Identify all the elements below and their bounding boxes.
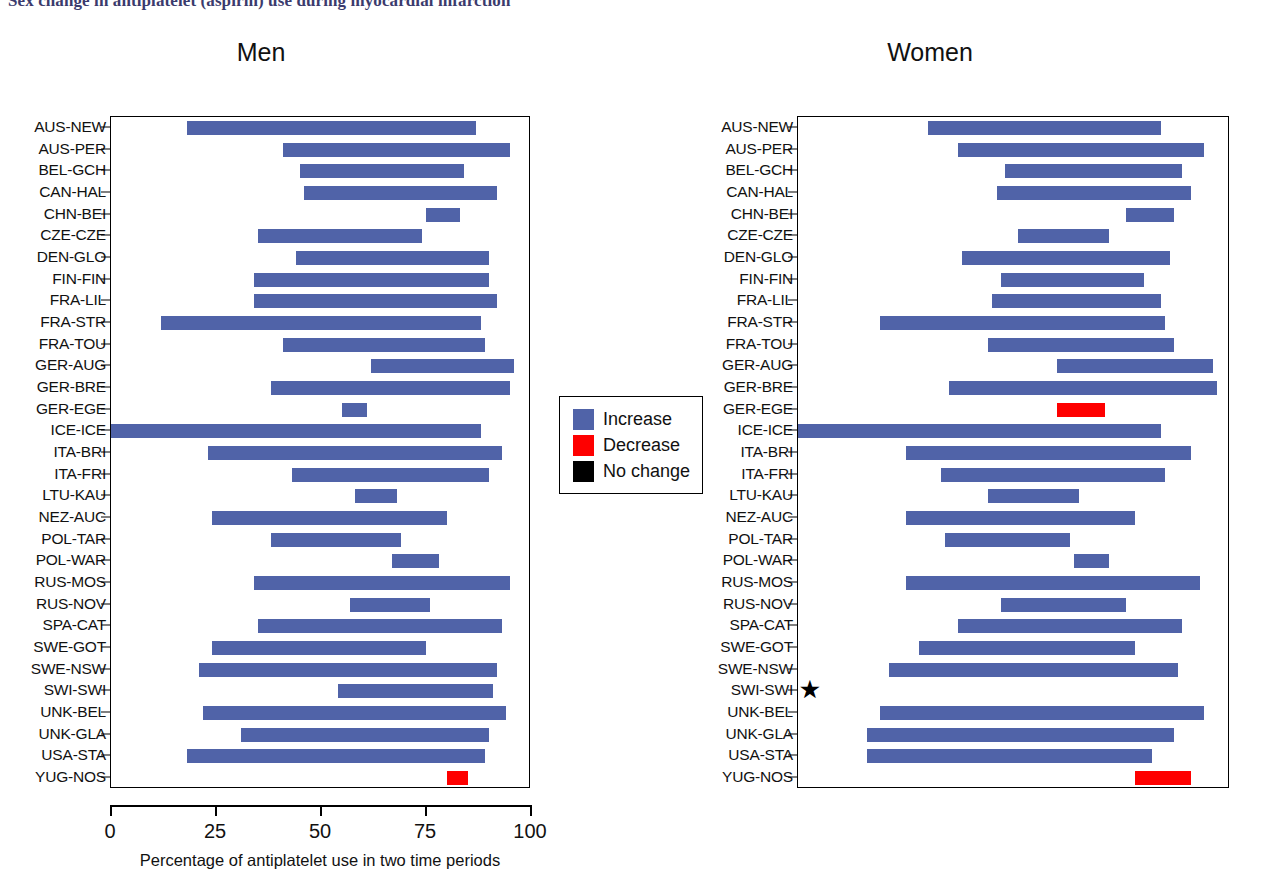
bar-women-swe-nsw (889, 663, 1178, 677)
y-tick-women-26 (788, 690, 797, 691)
bar-women-aus-per (958, 143, 1204, 157)
y-tick-men-11 (101, 365, 110, 366)
bar-women-fra-tou (988, 338, 1174, 352)
y-label-men-usa-sta: USA-STA (41, 746, 106, 764)
bar-women-den-glo (962, 251, 1169, 265)
plot-area-men (110, 116, 530, 788)
y-tick-women-22 (788, 603, 797, 604)
y-label-men-cze-cze: CZE-CZE (40, 226, 106, 244)
y-tick-women-17 (788, 495, 797, 496)
y-label-men-ger-bre: GER-BRE (37, 378, 106, 396)
bar-men-rus-mos (254, 576, 510, 590)
y-label-men-fra-lil: FRA-LIL (50, 291, 106, 309)
bar-men-ita-bri (208, 446, 502, 460)
legend-label-nochange: No change (603, 462, 690, 480)
legend-item-nochange: No change (573, 458, 702, 484)
y-label-women-ita-fri: ITA-FRI (741, 465, 793, 483)
x-tick-men-50 (320, 805, 322, 816)
y-tick-women-24 (788, 647, 797, 648)
bar-men-pol-tar (271, 533, 401, 547)
y-tick-women-6 (788, 256, 797, 257)
y-label-women-aus-per: AUS-PER (725, 140, 793, 158)
y-tick-women-9 (788, 321, 797, 322)
y-label-women-bel-gch: BEL-GCH (725, 161, 793, 179)
y-tick-women-18 (788, 517, 797, 518)
y-tick-men-13 (101, 408, 110, 409)
bar-women-fin-fin (1001, 273, 1144, 287)
y-label-women-fra-str: FRA-STR (727, 313, 793, 331)
y-label-women-swe-nsw: SWE-NSW (718, 660, 793, 678)
bar-men-fra-lil (254, 294, 498, 308)
y-label-men-den-glo: DEN-GLO (37, 248, 106, 266)
y-label-women-swi-swi: SWI-SWI (731, 681, 793, 699)
bar-men-cze-cze (258, 229, 422, 243)
legend: IncreaseDecreaseNo change (559, 396, 703, 494)
y-label-men-rus-nov: RUS-NOV (36, 595, 106, 613)
bar-men-nez-auc (212, 511, 447, 525)
bar-women-swe-got (919, 641, 1135, 655)
bar-men-yug-nos (447, 771, 468, 785)
bar-men-fin-fin (254, 273, 489, 287)
plot-area-women (797, 116, 1229, 788)
bar-men-ger-ege (342, 403, 367, 417)
bar-women-ice-ice (798, 424, 1161, 438)
y-label-women-unk-bel: UNK-BEL (727, 703, 793, 721)
y-tick-women-21 (788, 582, 797, 583)
x-tick-label-men-75: 75 (414, 820, 436, 843)
x-tick-men-100 (530, 805, 532, 816)
y-label-women-ltu-kau: LTU-KAU (729, 486, 793, 504)
y-tick-men-7 (101, 278, 110, 279)
y-tick-men-14 (101, 430, 110, 431)
y-label-men-yug-nos: YUG-NOS (35, 768, 106, 786)
x-tick-men-0 (110, 805, 112, 816)
y-tick-women-20 (788, 560, 797, 561)
y-tick-women-2 (788, 170, 797, 171)
panel-title-men: Men (0, 38, 577, 67)
bar-men-usa-sta (187, 749, 485, 763)
y-tick-men-24 (101, 647, 110, 648)
y-tick-women-28 (788, 733, 797, 734)
y-tick-men-2 (101, 170, 110, 171)
y-label-women-pol-war: POL-WAR (723, 551, 793, 569)
y-label-women-ger-ege: GER-EGE (723, 400, 793, 418)
y-label-men-pol-war: POL-WAR (36, 551, 106, 569)
figure-root: Sex change in antiplatelet (aspirin) use… (0, 0, 1264, 888)
bar-women-ger-aug (1057, 359, 1213, 373)
bar-men-aus-new (187, 121, 477, 135)
y-tick-men-20 (101, 560, 110, 561)
y-tick-women-1 (788, 148, 797, 149)
bar-women-ita-bri (906, 446, 1191, 460)
y-tick-women-7 (788, 278, 797, 279)
y-label-men-can-hal: CAN-HAL (39, 183, 106, 201)
y-label-men-pol-tar: POL-TAR (41, 530, 106, 548)
bar-men-den-glo (296, 251, 489, 265)
y-label-men-aus-new: AUS-NEW (34, 118, 106, 136)
y-tick-men-25 (101, 668, 110, 669)
y-tick-men-15 (101, 452, 110, 453)
y-label-men-fin-fin: FIN-FIN (52, 270, 106, 288)
y-label-men-unk-bel: UNK-BEL (40, 703, 106, 721)
bar-men-spa-cat (258, 619, 502, 633)
bar-men-can-hal (304, 186, 497, 200)
y-label-men-spa-cat: SPA-CAT (43, 616, 106, 634)
bar-women-can-hal (997, 186, 1191, 200)
y-tick-women-12 (788, 386, 797, 387)
bar-women-nez-auc (906, 511, 1135, 525)
x-axis-title-men: Percentage of antiplatelet use in two ti… (140, 851, 500, 870)
bar-women-ger-ege (1057, 403, 1105, 417)
bar-women-yug-nos (1135, 771, 1191, 785)
bar-women-aus-new (928, 121, 1161, 135)
y-tick-women-4 (788, 213, 797, 214)
bar-women-rus-nov (1001, 598, 1126, 612)
bar-men-swe-nsw (199, 663, 497, 677)
y-label-women-spa-cat: SPA-CAT (730, 616, 793, 634)
bar-women-usa-sta (867, 749, 1152, 763)
y-label-men-aus-per: AUS-PER (38, 140, 106, 158)
y-label-women-ger-aug: GER-AUG (722, 356, 793, 374)
y-label-women-chn-bei: CHN-BEI (731, 205, 793, 223)
y-tick-women-15 (788, 452, 797, 453)
y-tick-women-23 (788, 625, 797, 626)
y-label-women-pol-tar: POL-TAR (728, 530, 793, 548)
bar-women-ltu-kau (988, 489, 1079, 503)
y-label-women-usa-sta: USA-STA (728, 746, 793, 764)
